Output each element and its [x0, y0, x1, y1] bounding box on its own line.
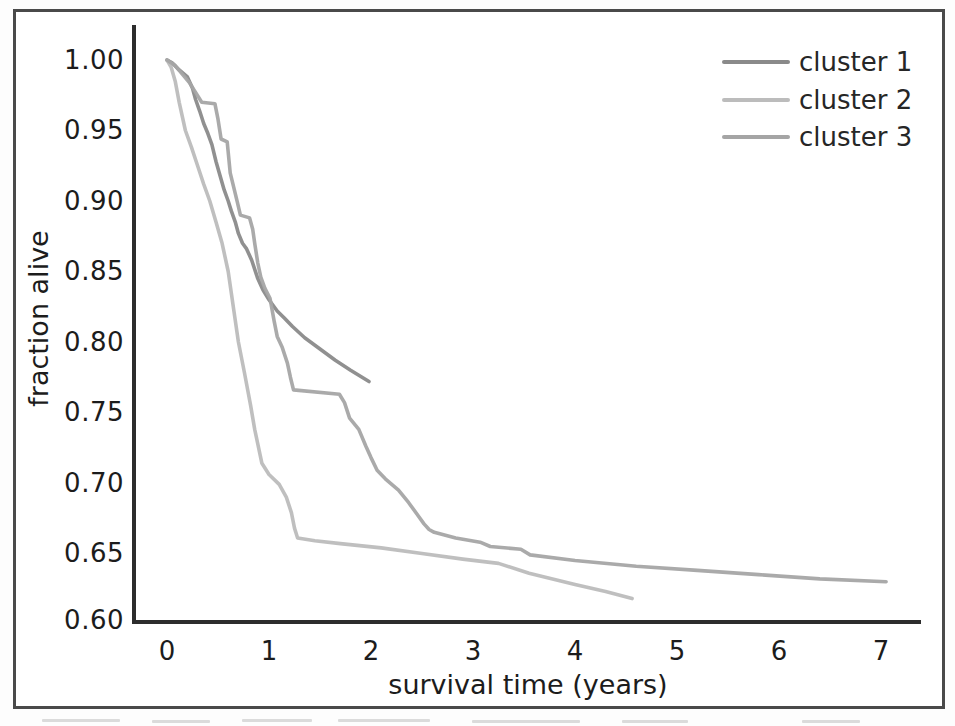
y-tick-label: 0.90 — [32, 184, 124, 218]
x-tick-label: 1 — [234, 634, 304, 668]
y-tick-label: 1.00 — [32, 43, 124, 77]
legend-label: cluster 1 — [799, 45, 912, 79]
y-axis-title: fraction alive — [23, 219, 54, 419]
y-tick-label: 0.60 — [32, 603, 124, 637]
legend-item-cluster-1: cluster 1 — [722, 45, 912, 79]
legend-swatch-3 — [722, 135, 790, 139]
x-tick-label: 5 — [642, 634, 712, 668]
y-tick-label: 0.65 — [32, 536, 124, 570]
legend-item-cluster-3: cluster 3 — [722, 120, 912, 154]
caption-remnant — [242, 719, 312, 722]
caption-remnant — [338, 719, 430, 722]
y-tick-label: 0.70 — [32, 466, 124, 500]
x-tick-label: 0 — [132, 634, 202, 668]
y-tick-label: 0.95 — [32, 113, 124, 147]
x-tick-label: 3 — [438, 634, 508, 668]
legend-swatch-1 — [722, 60, 790, 64]
legend-swatch-2 — [722, 98, 790, 102]
caption-remnant — [152, 720, 210, 723]
x-tick-label: 7 — [846, 634, 916, 668]
legend-item-cluster-2: cluster 2 — [722, 83, 912, 117]
x-tick-label: 4 — [540, 634, 610, 668]
caption-remnant — [42, 719, 120, 722]
caption-remnant — [472, 720, 580, 723]
x-axis-title: survival time (years) — [328, 669, 728, 700]
caption-remnant — [622, 720, 688, 723]
caption-remnant — [802, 720, 860, 723]
x-tick-label: 2 — [336, 634, 406, 668]
legend-label: cluster 2 — [799, 83, 912, 117]
x-tick-label: 6 — [744, 634, 814, 668]
legend-label: cluster 3 — [799, 120, 912, 154]
series-line-cluster-2 — [167, 60, 632, 599]
series-line-cluster-1 — [167, 60, 369, 382]
